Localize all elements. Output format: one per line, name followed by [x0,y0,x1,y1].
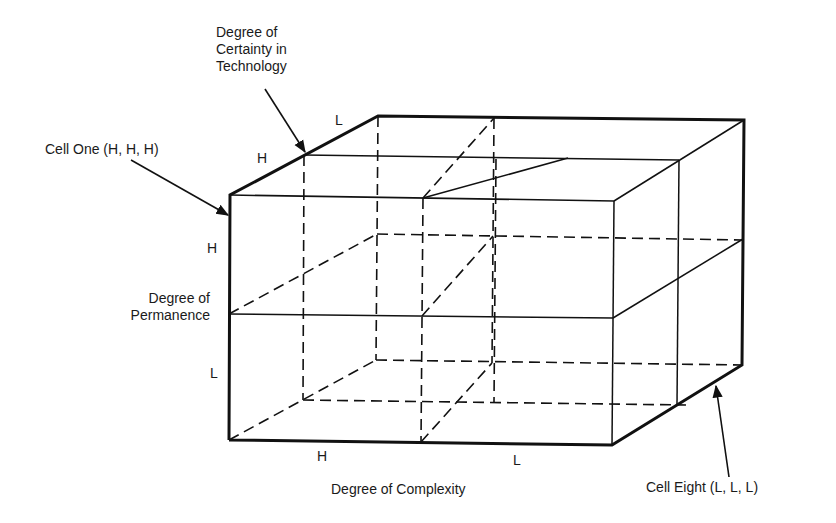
permanence-high-label: H [207,240,217,257]
permanence-title-line1: Degree of [104,290,210,307]
cube-diagram: Degree of Certainty in Technology H L Ce… [0,0,836,523]
technology-axis-title: Degree of Certainty in Technology [216,24,287,75]
callout-arrows [131,89,729,477]
technology-low-label: L [335,112,343,129]
cube-drawing [0,0,836,523]
permanence-low-label: L [210,365,218,382]
technology-high-label: H [257,150,267,167]
permanence-title-line2: Permanence [104,307,210,324]
cell-one-callout: Cell One (H, H, H) [45,141,159,158]
cell-one-arrow [131,160,228,215]
visible-edges [229,120,744,445]
technology-title-line1: Degree of [216,24,287,41]
outline-edges [229,116,744,445]
cell-eight-arrow [716,386,729,477]
complexity-low-label: L [513,452,521,469]
hidden-edges [229,116,742,442]
technology-title-line3: Technology [216,58,287,75]
complexity-high-label: H [317,448,327,465]
technology-arrow [265,89,305,152]
technology-title-line2: Certainty in [216,41,287,58]
complexity-axis-title: Degree of Complexity [331,481,466,498]
permanence-axis-title: Degree of Permanence [104,290,210,324]
cell-eight-callout: Cell Eight (L, L, L) [646,479,758,496]
